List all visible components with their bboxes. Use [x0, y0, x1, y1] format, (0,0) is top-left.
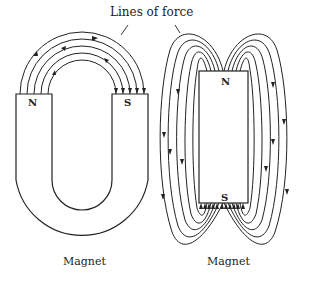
horseshoe-magnet [16, 94, 148, 235]
magnetic-field-diagram [0, 0, 315, 294]
horseshoe-field-lines [20, 32, 144, 94]
lines-of-force-label: Lines of force [110, 5, 193, 19]
label-pointer-right [175, 25, 180, 33]
horseshoe-north-label: N [28, 97, 37, 108]
horseshoe-caption: Magnet [63, 255, 106, 268]
bar-right-field-lines [224, 34, 287, 244]
bar-side-arrows [161, 82, 289, 200]
horseshoe-south-label: S [124, 97, 131, 108]
label-pointer-left [121, 25, 128, 35]
bar-south-arrows [199, 203, 245, 209]
bar-north-label: N [221, 76, 230, 87]
bar-caption: Magnet [207, 255, 250, 268]
bar-south-label: S [221, 192, 228, 203]
bar-left-field-lines [160, 34, 223, 244]
bar-magnet [199, 71, 248, 203]
